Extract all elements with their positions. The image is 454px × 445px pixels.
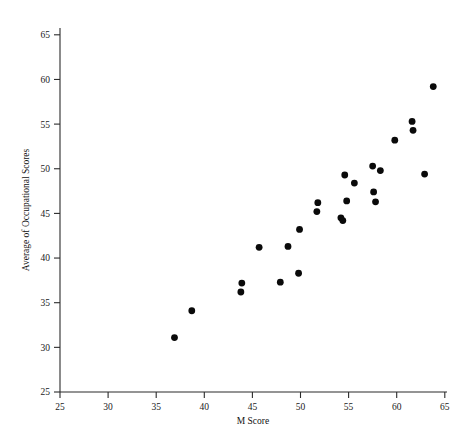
data-point xyxy=(314,199,321,206)
y-tick-label-30: 30 xyxy=(41,343,51,353)
data-point xyxy=(341,172,348,179)
data-point xyxy=(377,167,384,174)
data-point xyxy=(285,243,292,250)
data-point xyxy=(391,137,398,144)
x-axis-ticks: 253035404550556065 xyxy=(55,392,450,412)
data-point xyxy=(188,307,195,314)
y-tick-label-35: 35 xyxy=(41,298,51,308)
x-tick-label-55: 55 xyxy=(344,402,354,412)
y-tick-label-45: 45 xyxy=(41,209,51,219)
data-point xyxy=(339,217,346,224)
y-tick-label-50: 50 xyxy=(41,164,51,174)
data-point xyxy=(296,226,303,233)
x-tick-label-25: 25 xyxy=(55,402,65,412)
data-point xyxy=(256,244,263,251)
y-tick-label-65: 65 xyxy=(41,30,51,40)
data-points-group xyxy=(171,83,437,341)
x-tick-label-45: 45 xyxy=(248,402,258,412)
data-point xyxy=(430,83,437,90)
data-point xyxy=(343,198,350,205)
x-axis-title: M Score xyxy=(237,416,269,426)
data-point xyxy=(370,189,377,196)
x-tick-label-65: 65 xyxy=(440,402,450,412)
data-point xyxy=(351,180,358,187)
scatter-plot-figure: 253035404550556065 253035404550556065 M … xyxy=(0,0,454,445)
data-point xyxy=(372,198,379,205)
data-point xyxy=(369,163,376,170)
data-point xyxy=(421,171,428,178)
scatter-plot-canvas: 253035404550556065 253035404550556065 M … xyxy=(0,0,454,445)
x-tick-label-50: 50 xyxy=(296,402,306,412)
x-tick-label-30: 30 xyxy=(103,402,113,412)
x-tick-label-40: 40 xyxy=(200,402,210,412)
y-tick-label-55: 55 xyxy=(41,120,51,130)
y-axis-title: Average of Occupational Scores xyxy=(21,148,31,271)
data-point xyxy=(295,270,302,277)
data-point xyxy=(237,289,244,296)
y-tick-label-25: 25 xyxy=(41,387,51,397)
y-axis-ticks: 253035404550556065 xyxy=(41,30,61,397)
plot-axes xyxy=(60,28,447,392)
data-point xyxy=(313,208,320,215)
data-point xyxy=(171,334,178,341)
data-point xyxy=(410,127,417,134)
x-tick-label-35: 35 xyxy=(151,402,161,412)
x-tick-label-60: 60 xyxy=(392,402,402,412)
data-point xyxy=(277,279,284,286)
data-point xyxy=(409,118,416,125)
y-tick-label-40: 40 xyxy=(41,253,51,263)
data-point xyxy=(238,280,245,287)
y-tick-label-60: 60 xyxy=(41,75,51,85)
